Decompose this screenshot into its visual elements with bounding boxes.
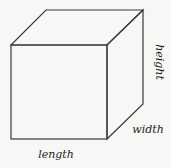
side-face — [107, 10, 143, 139]
cube-drawing: length width height — [0, 0, 171, 168]
front-face — [11, 45, 107, 139]
height-label: height — [153, 44, 166, 80]
width-label: width — [132, 123, 163, 136]
cube-diagram: length width height — [0, 0, 171, 168]
top-face — [11, 10, 143, 45]
length-label: length — [38, 148, 74, 161]
